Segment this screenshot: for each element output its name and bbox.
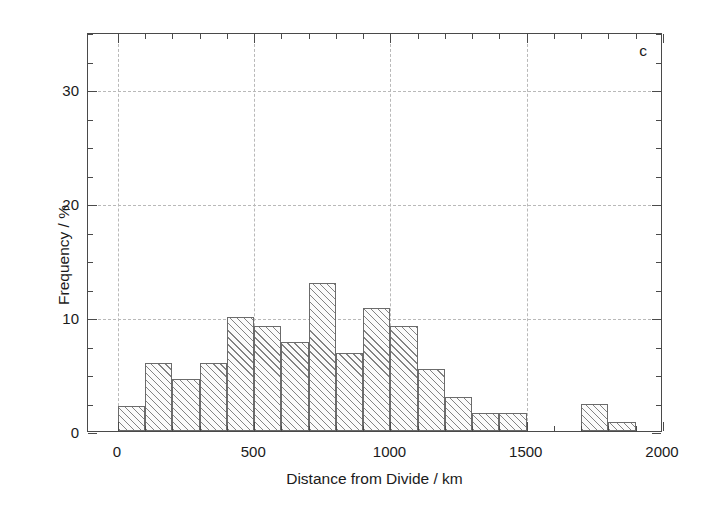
x-axis-major-tick: [254, 422, 255, 431]
x-axis-major-tick-top: [118, 34, 119, 43]
histogram-figure: c Frequency / % Distance from Divide / k…: [0, 0, 706, 510]
x-axis-minor-tick: [281, 426, 282, 431]
x-axis-minor-tick: [581, 426, 582, 431]
y-axis-minor-tick: [88, 376, 93, 377]
x-axis-major-tick: [663, 422, 664, 431]
x-axis-minor-tick-top: [581, 34, 582, 39]
y-axis-minor-tick-right: [656, 148, 661, 149]
y-axis-tick-label: 10: [39, 311, 79, 326]
x-axis-minor-tick: [227, 426, 228, 431]
y-axis-tick-label: 30: [39, 83, 79, 98]
x-axis-minor-tick-top: [445, 34, 446, 39]
histogram-bar: [227, 317, 254, 431]
y-axis-minor-tick: [88, 291, 93, 292]
x-axis-minor-tick-top: [145, 34, 146, 39]
y-axis-minor-tick: [88, 34, 93, 35]
x-axis-minor-tick-top: [309, 34, 310, 39]
histogram-bar: [418, 369, 445, 431]
y-axis-minor-tick-right: [656, 376, 661, 377]
panel-label: c: [639, 42, 647, 60]
gridline-vertical: [527, 34, 528, 431]
histogram-bar: [581, 404, 608, 431]
x-axis-minor-tick: [145, 426, 146, 431]
x-axis-minor-tick: [336, 426, 337, 431]
y-axis-minor-tick-right: [656, 120, 661, 121]
histogram-bar: [200, 363, 227, 431]
x-axis-minor-tick-top: [336, 34, 337, 39]
y-axis-major-tick: [88, 433, 97, 434]
y-axis-minor-tick-right: [656, 63, 661, 64]
x-axis-minor-tick: [445, 426, 446, 431]
x-axis-title: Distance from Divide / km: [87, 470, 662, 488]
y-axis-minor-tick: [88, 148, 93, 149]
y-axis-major-tick: [88, 319, 97, 320]
gridline-horizontal: [88, 205, 661, 206]
y-axis-minor-tick-right: [656, 234, 661, 235]
x-axis-minor-tick: [418, 426, 419, 431]
histogram-bar: [445, 397, 472, 431]
plot-frame: c: [87, 33, 662, 432]
x-axis-minor-tick-top: [227, 34, 228, 39]
x-axis-minor-tick-top: [418, 34, 419, 39]
histogram-bar: [281, 342, 308, 431]
histogram-bar: [254, 326, 281, 431]
y-axis-tick-label: 20: [39, 197, 79, 212]
x-axis-minor-tick: [608, 426, 609, 431]
x-axis-tick-label: 1500: [509, 444, 542, 459]
y-axis-minor-tick: [88, 405, 93, 406]
x-axis-major-tick-top: [254, 34, 255, 43]
x-axis-minor-tick-top: [554, 34, 555, 39]
y-axis-minor-tick: [88, 177, 93, 178]
y-axis-minor-tick: [88, 120, 93, 121]
gridline-vertical: [118, 34, 119, 431]
plot-area: [88, 34, 661, 431]
y-axis-minor-tick: [88, 63, 93, 64]
x-axis-minor-tick-top: [608, 34, 609, 39]
y-axis-minor-tick-right: [656, 348, 661, 349]
y-axis-minor-tick-right: [656, 291, 661, 292]
y-axis-minor-tick-right: [656, 177, 661, 178]
x-axis-minor-tick: [636, 426, 637, 431]
x-axis-major-tick-top: [663, 34, 664, 43]
y-axis-minor-tick: [88, 234, 93, 235]
histogram-bar: [363, 308, 390, 431]
y-axis-major-tick-right: [652, 91, 661, 92]
x-axis-minor-tick: [499, 426, 500, 431]
x-axis-tick-label: 0: [113, 444, 121, 459]
x-axis-tick-label: 1000: [373, 444, 406, 459]
x-axis-minor-tick: [472, 426, 473, 431]
histogram-bar: [499, 413, 526, 431]
x-axis-minor-tick-top: [172, 34, 173, 39]
y-axis-major-tick: [88, 91, 97, 92]
x-axis-minor-tick: [172, 426, 173, 431]
gridline-horizontal: [88, 91, 661, 92]
x-axis-major-tick: [390, 422, 391, 431]
y-axis-major-tick: [88, 205, 97, 206]
y-axis-minor-tick-right: [656, 34, 661, 35]
x-axis-minor-tick-top: [363, 34, 364, 39]
y-axis-major-tick-right: [652, 433, 661, 434]
histogram-bar: [390, 326, 417, 431]
x-axis-minor-tick-top: [281, 34, 282, 39]
y-axis-major-tick-right: [652, 319, 661, 320]
y-axis-tick-label: 0: [39, 425, 79, 440]
x-axis-major-tick: [118, 422, 119, 431]
y-axis-major-tick-right: [652, 205, 661, 206]
y-axis-minor-tick: [88, 348, 93, 349]
x-axis-major-tick: [527, 422, 528, 431]
histogram-bar: [472, 413, 499, 431]
y-axis-minor-tick-right: [656, 262, 661, 263]
histogram-bar: [309, 283, 336, 431]
x-axis-minor-tick-top: [636, 34, 637, 39]
histogram-bar: [608, 422, 635, 431]
x-axis-minor-tick-top: [472, 34, 473, 39]
x-axis-minor-tick-top: [499, 34, 500, 39]
y-axis-minor-tick-right: [656, 405, 661, 406]
histogram-bar: [172, 379, 199, 431]
x-axis-tick-label: 2000: [645, 444, 678, 459]
x-axis-minor-tick: [363, 426, 364, 431]
x-axis-major-tick-top: [527, 34, 528, 43]
x-axis-minor-tick: [554, 426, 555, 431]
x-axis-minor-tick: [200, 426, 201, 431]
x-axis-minor-tick: [309, 426, 310, 431]
